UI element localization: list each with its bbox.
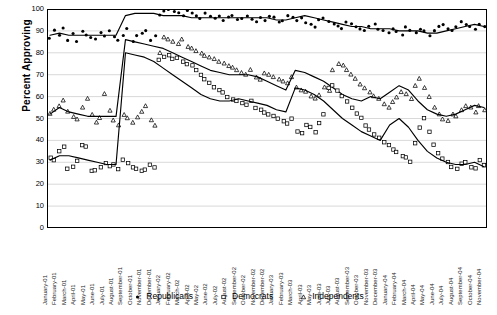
y-tick-label: 10 xyxy=(22,202,44,210)
legend-item[interactable]: Democrats xyxy=(219,291,273,301)
y-tick-label: 20 xyxy=(22,180,44,188)
plot-area xyxy=(47,9,487,228)
y-tick-label: 30 xyxy=(22,158,44,166)
series-republicans xyxy=(48,9,487,43)
legend-label: Republicans xyxy=(146,291,193,301)
trend-line xyxy=(50,53,484,167)
series-democrats xyxy=(49,53,486,173)
legend-label: Independents xyxy=(312,291,364,301)
approval-chart: Percent Approving 0102030405060708090100… xyxy=(0,0,497,315)
chart-legend: RepublicansDemocratsIndependents xyxy=(0,291,497,301)
legend-item[interactable]: Republicans xyxy=(133,291,193,301)
trend-line xyxy=(50,13,484,35)
data-points xyxy=(49,54,486,173)
y-tick-label: 80 xyxy=(22,49,44,57)
gridlines xyxy=(47,9,487,206)
legend-label: Democrats xyxy=(232,291,273,301)
triangle-icon xyxy=(299,292,308,301)
plot-svg xyxy=(47,9,487,228)
filled-circle-icon xyxy=(133,292,142,301)
y-tick-label: 90 xyxy=(22,27,44,35)
data-points xyxy=(48,9,487,43)
y-tick-label: 100 xyxy=(22,5,44,13)
legend-item[interactable]: Independents xyxy=(299,291,364,301)
y-tick-label: 60 xyxy=(22,93,44,101)
y-tick-label: 70 xyxy=(22,71,44,79)
y-tick-label: 0 xyxy=(22,224,44,232)
y-axis-ticks: 0102030405060708090100 xyxy=(20,0,44,240)
open-square-icon xyxy=(219,292,228,301)
y-tick-label: 50 xyxy=(22,115,44,123)
y-tick-label: 40 xyxy=(22,136,44,144)
